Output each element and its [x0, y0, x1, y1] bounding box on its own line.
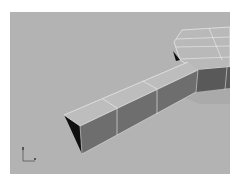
scene-canvas[interactable]	[10, 12, 230, 174]
axis-gizmo	[22, 147, 36, 161]
extruded-box[interactable]	[64, 62, 198, 154]
viewport-perspective[interactable]	[10, 12, 230, 174]
